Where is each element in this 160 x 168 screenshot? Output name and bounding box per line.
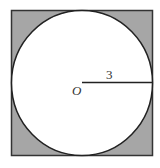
radius-label: 3 <box>106 67 113 82</box>
center-label: O <box>72 83 82 98</box>
diagram: 3 O <box>0 0 160 168</box>
